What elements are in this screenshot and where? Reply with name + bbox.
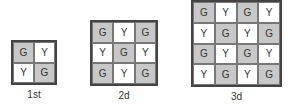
cell-Y: Y	[215, 2, 237, 23]
grid-3d: GYGYYGYGGYGYYGYG	[191, 0, 282, 87]
cell-G: G	[13, 42, 34, 63]
cell-Y: Y	[258, 44, 280, 65]
cell-G: G	[215, 23, 237, 44]
cell-G: G	[92, 22, 113, 43]
cell-Y: Y	[237, 23, 259, 44]
label-2d: 2d	[90, 90, 158, 101]
cell-Y: Y	[113, 22, 134, 43]
cell-Y: Y	[258, 2, 280, 23]
cell-G: G	[135, 22, 156, 43]
cell-G: G	[215, 64, 237, 85]
cell-G: G	[258, 64, 280, 85]
cell-Y: Y	[113, 63, 134, 84]
cell-Y: Y	[13, 63, 34, 84]
cell-Y: Y	[34, 42, 55, 63]
cell-G: G	[193, 44, 215, 65]
grid-1st: GYYG	[11, 40, 57, 85]
label-3d: 3d	[191, 91, 282, 102]
cell-Y: Y	[237, 64, 259, 85]
cell-G: G	[92, 63, 113, 84]
cell-G: G	[34, 63, 55, 84]
cell-Y: Y	[215, 44, 237, 65]
cell-G: G	[237, 2, 259, 23]
cell-G: G	[193, 2, 215, 23]
grid-2d: GYGYGYGYG	[90, 20, 158, 86]
cell-G: G	[135, 63, 156, 84]
cell-Y: Y	[193, 64, 215, 85]
cell-G: G	[258, 23, 280, 44]
label-1st: 1st	[11, 89, 57, 100]
cell-G: G	[113, 43, 134, 64]
cell-Y: Y	[92, 43, 113, 64]
cell-G: G	[237, 44, 259, 65]
cell-Y: Y	[135, 43, 156, 64]
cell-Y: Y	[193, 23, 215, 44]
